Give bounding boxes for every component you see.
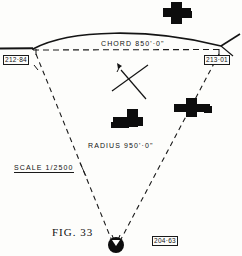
station-label-right-tangent: 213·01 <box>204 55 230 65</box>
scale-leader-line <box>80 163 86 176</box>
chord-dimension-label: CHORD 850'·0" <box>101 40 165 47</box>
station-label-left-tangent: 212·84 <box>3 55 29 65</box>
figure-33-drawing: 212·84 213·01 204·63 CHORD 850'·0" RADIU… <box>0 0 242 256</box>
left-point-tick <box>34 49 38 70</box>
radius-dimension-label: RADIUS 950'·0" <box>88 142 154 149</box>
station-label-curve-centre: 204·63 <box>152 236 178 246</box>
right-tangent-line <box>221 34 240 46</box>
north-arrow-icon <box>112 63 148 99</box>
drawing-canvas <box>0 0 242 256</box>
building-right <box>174 98 212 117</box>
scale-label: SCALE 1/2500 <box>14 164 74 173</box>
building-top-right <box>163 2 192 24</box>
building-centre <box>111 109 143 128</box>
chord-line <box>33 50 221 51</box>
figure-caption: FIG. 33 <box>52 226 93 238</box>
